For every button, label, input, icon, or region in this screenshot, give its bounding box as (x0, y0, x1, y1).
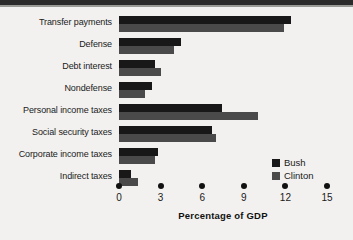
x-tick-dot (116, 183, 122, 189)
category-label: Corporate income taxes (0, 149, 112, 160)
bar-bush (119, 38, 181, 46)
x-tick-label: 12 (271, 192, 299, 203)
legend-label-bush: Bush (284, 157, 306, 169)
category-label: Debt interest (0, 61, 112, 72)
bar-clinton (119, 156, 155, 164)
category-label: Defense (0, 39, 112, 50)
category-label: Personal income taxes (0, 105, 112, 116)
legend-swatch-bush (272, 159, 280, 167)
x-tick-label: 0 (105, 192, 133, 203)
x-tick-dot (199, 183, 205, 189)
bar-bush (119, 16, 291, 24)
bar-bush (119, 60, 155, 68)
legend-item-clinton: Clinton (272, 170, 342, 182)
legend-item-bush: Bush (272, 157, 342, 169)
bar-bush (119, 104, 222, 112)
legend: Bush Clinton (272, 157, 342, 183)
x-tick-dot (158, 183, 164, 189)
plot-area: Transfer paymentsDefenseDebt interestNon… (0, 7, 353, 240)
bar-clinton (119, 112, 258, 120)
bar-group: Social security taxes (0, 125, 353, 147)
x-axis: 03691215 Percentage of GDP (0, 183, 353, 240)
x-tick-label: 6 (188, 192, 216, 203)
x-axis-label: Percentage of GDP (119, 210, 327, 221)
bar-group: Transfer payments (0, 15, 353, 37)
bar-clinton (119, 90, 145, 98)
legend-swatch-clinton (272, 172, 280, 180)
bar-clinton (119, 68, 161, 76)
category-label: Transfer payments (0, 17, 112, 28)
bar-group: Defense (0, 37, 353, 59)
bar-bush (119, 170, 131, 178)
x-tick-label: 15 (313, 192, 341, 203)
bar-group: Personal income taxes (0, 103, 353, 125)
x-tick-dot (324, 183, 330, 189)
bar-bush (119, 82, 152, 90)
legend-label-clinton: Clinton (284, 170, 314, 182)
bar-bush (119, 126, 212, 134)
x-tick-dot (282, 183, 288, 189)
category-label: Indirect taxes (0, 171, 112, 182)
bar-clinton (119, 134, 216, 142)
bar-group: Debt interest (0, 59, 353, 81)
bar-bush (119, 148, 158, 156)
category-label: Social security taxes (0, 127, 112, 138)
bar-clinton (119, 46, 174, 54)
x-tick-label: 9 (230, 192, 258, 203)
bar-clinton (119, 24, 284, 32)
x-tick-dot (241, 183, 247, 189)
category-label: Nondefense (0, 83, 112, 94)
chart-figure: Transfer paymentsDefenseDebt interestNon… (0, 0, 353, 240)
x-tick-label: 3 (147, 192, 175, 203)
bar-group: Nondefense (0, 81, 353, 103)
